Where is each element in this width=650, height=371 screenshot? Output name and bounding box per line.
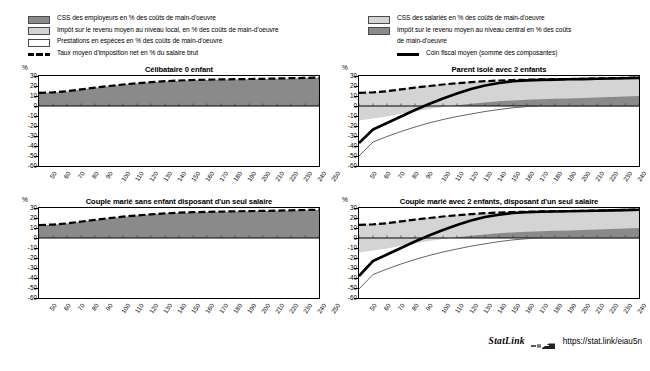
y-axis-tick	[354, 258, 358, 259]
light-swatch-icon	[28, 27, 50, 35]
y-axis-tick	[354, 166, 358, 167]
x-axis-tick-label: 170	[217, 302, 229, 315]
legend-item-employer-ssc: CSS des employeurs en % des coûts de mai…	[28, 14, 279, 24]
x-axis-tick-label: 230	[621, 170, 633, 183]
plot-area	[38, 75, 320, 167]
x-axis-tick-label: 220	[287, 170, 299, 183]
y-axis-tick	[354, 156, 358, 157]
y-axis-tick	[354, 208, 358, 209]
x-axis-tick-label: 250	[329, 170, 341, 183]
x-axis-tick-label: 50	[368, 170, 378, 180]
legend-item-central-income-tax-cont: de main-d'oeuvre	[368, 37, 571, 47]
x-axis-tick-label: 50	[48, 302, 58, 312]
x-axis-tick-label: 120	[147, 302, 159, 315]
x-axis-tick-label: 200	[579, 302, 591, 315]
x-axis-tick-label: 100	[439, 170, 451, 183]
legend-label: CSS des salariés en % des coûts de main-…	[397, 14, 545, 23]
y-axis-tick	[354, 86, 358, 87]
y-axis-tick	[34, 218, 38, 219]
x-axis-tick-label: 200	[259, 170, 271, 183]
x-axis-tick-label: 100	[439, 302, 451, 315]
x-axis-tick-label: 250	[329, 302, 341, 315]
y-axis-tick	[34, 136, 38, 137]
y-axis-tick	[34, 298, 38, 299]
x-axis-tick-label: 170	[217, 170, 229, 183]
legend-column-left: CSS des employeurs en % des coûts de mai…	[28, 14, 279, 60]
statlink-url[interactable]: https://stat.link/eiau5n	[563, 337, 642, 346]
y-axis-unit-label: %	[22, 196, 28, 203]
x-axis-tick-label: 110	[453, 170, 464, 182]
y-axis-unit-label: %	[22, 64, 28, 71]
x-axis-tick-label: 90	[104, 170, 114, 180]
x-axis-tick-label: 150	[189, 170, 201, 183]
x-axis-tick-label: 180	[551, 170, 563, 183]
x-axis-tick-label: 130	[481, 170, 493, 183]
x-axis-tick-label: 120	[467, 170, 479, 183]
y-axis-tick	[34, 126, 38, 127]
x-axis-tick-label: 160	[203, 302, 215, 315]
x-axis-tick-label: 180	[551, 302, 563, 315]
x-axis-tick-label: 130	[161, 170, 173, 183]
legend-label: Coin fiscal moyen (somme des composantes…	[426, 49, 557, 58]
y-axis-tick	[354, 238, 358, 239]
x-axis-tick-label: 140	[175, 170, 187, 183]
y-axis-unit-label: %	[342, 196, 348, 203]
y-axis-tick	[354, 136, 358, 137]
legend-item-tax-wedge: Coin fiscal moyen (somme des composantes…	[368, 49, 571, 59]
y-axis-tick	[354, 278, 358, 279]
y-axis-tick	[34, 86, 38, 87]
panel-title: Couple marié avec 2 enfants, disposant d…	[358, 197, 640, 206]
y-axis-tick	[354, 116, 358, 117]
y-axis-unit-label: %	[342, 64, 348, 71]
x-axis-tick-label: 190	[565, 302, 577, 315]
x-axis-tick-label: 200	[579, 170, 591, 183]
panel-title: Couple marié sans enfant disposant d'un …	[38, 197, 320, 206]
x-axis-tick-label: 210	[593, 302, 605, 315]
x-axis-tick-label: 220	[607, 170, 619, 183]
plot-area	[358, 75, 640, 167]
plot-area	[358, 207, 640, 299]
y-axis-tick	[34, 278, 38, 279]
statlink-glyph-icon	[531, 337, 557, 346]
x-axis-tick-label: 150	[189, 302, 201, 315]
x-axis-tick-label: 150	[509, 170, 521, 183]
x-axis-tick-label: 210	[273, 170, 285, 183]
x-axis: 5060708090100110120130140150160170180190…	[38, 168, 320, 196]
x-axis: 5060708090100110120130140150160170180190…	[358, 300, 640, 328]
x-axis-tick-label: 80	[410, 170, 420, 180]
plot-svg	[359, 76, 639, 166]
y-axis-tick	[34, 258, 38, 259]
y-axis-tick	[34, 146, 38, 147]
statlink-block[interactable]: StatLink https://stat.link/eiau5n	[489, 336, 642, 346]
y-axis-tick	[354, 96, 358, 97]
legend-label: Taux moyen d'imposition net en % du sala…	[57, 49, 198, 58]
x-axis-tick-label: 210	[273, 302, 285, 315]
x-axis-tick-label: 60	[62, 302, 72, 312]
x-axis-tick-label: 120	[467, 302, 479, 315]
y-axis-tick	[34, 166, 38, 167]
y-axis-tick	[34, 116, 38, 117]
x-axis-tick-label: 210	[593, 170, 605, 183]
y-axis-tick	[34, 96, 38, 97]
x-axis-tick-label: 120	[147, 170, 159, 183]
x-axis-tick-label: 160	[523, 170, 535, 183]
x-axis-tick-label: 200	[259, 302, 271, 315]
x-axis-tick-label: 230	[301, 170, 313, 183]
x-axis-tick-label: 140	[495, 302, 507, 315]
x-axis-tick-label: 70	[76, 170, 86, 180]
legend-label: Impôt sur le revenu moyen au niveau cent…	[397, 26, 571, 35]
x-axis-tick-label: 190	[565, 170, 577, 183]
footer: StatLink https://stat.link/eiau5n	[0, 336, 650, 358]
plot-svg	[39, 208, 319, 298]
x-axis-tick-label: 90	[424, 302, 434, 312]
y-axis-tick	[354, 126, 358, 127]
legend-item-cash-benefits: Prestations en espèces en % des coûts de…	[28, 37, 279, 47]
x-axis-tick-label: 220	[607, 302, 619, 315]
legend-item-employee-ssc: CSS des salariés en % des coûts de main-…	[368, 14, 571, 24]
y-axis: 3020100-10-20-30-40-50-60	[340, 207, 357, 299]
y-axis-tick	[354, 146, 358, 147]
x-axis-tick-label: 60	[62, 170, 72, 180]
legend-label: Impôt sur le revenu moyen au niveau loca…	[57, 26, 279, 35]
x-axis-tick-label: 70	[396, 302, 406, 312]
x-axis-tick-label: 230	[621, 302, 633, 315]
